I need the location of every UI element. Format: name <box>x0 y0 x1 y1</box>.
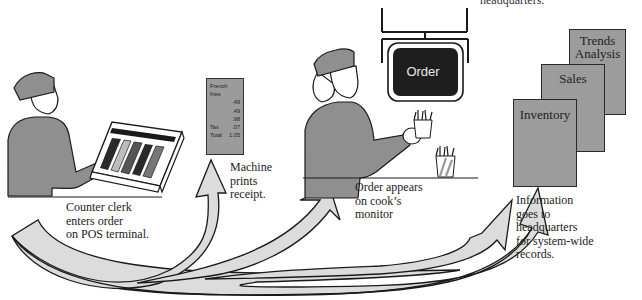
caption-order-appears: Order appears on cook’s monitor <box>355 181 423 222</box>
fries-on-counter <box>436 146 455 177</box>
report-inventory: Inventory <box>513 99 577 187</box>
caption-information-headquarters: Information goes to headquarters for sys… <box>516 194 594 262</box>
caption-counter-clerk: Counter clerk enters order on POS termin… <box>66 201 149 242</box>
caption-machine-prints: Machine prints receipt. <box>230 161 272 202</box>
fries-in-hand <box>414 110 432 138</box>
monitor-order-label: Order <box>393 64 453 79</box>
